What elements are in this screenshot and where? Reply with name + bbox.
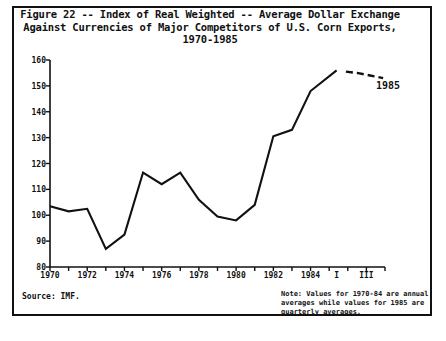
x-tick-label: 1972	[78, 271, 97, 280]
x-tick-label: 1982	[264, 271, 283, 280]
y-tick-label: 90	[24, 237, 46, 246]
annotation-1985: 1985	[376, 80, 400, 91]
line-chart-svg	[50, 60, 385, 267]
y-tick-label: 150	[24, 81, 46, 90]
y-tick-label: 140	[24, 107, 46, 116]
y-tick-label: 120	[24, 159, 46, 168]
x-tick-label: 1970	[40, 271, 59, 280]
figure-title: Figure 22 -- Index of Real Weighted -- A…	[14, 8, 406, 46]
figure-page: Figure 22 -- Index of Real Weighted -- A…	[0, 0, 446, 341]
footnote: Note: Values for 1970-84 are annual aver…	[281, 290, 431, 317]
source-note: Source: IMF.	[22, 292, 80, 301]
x-tick-label: III	[359, 271, 373, 280]
plot-area	[50, 60, 385, 267]
x-tick-label: 1976	[152, 271, 171, 280]
x-tick-label: 1974	[115, 271, 134, 280]
y-tick-label: 130	[24, 133, 46, 142]
x-tick-label: 1980	[226, 271, 245, 280]
chart-axes	[46, 60, 385, 271]
title-line-1: Figure 22 -- Index of Real Weighted -- A…	[14, 8, 406, 21]
series-line-annual	[50, 70, 337, 249]
title-line-3: 1970-1985	[14, 33, 406, 46]
y-tick-label: 110	[24, 185, 46, 194]
y-tick-label: 100	[24, 211, 46, 220]
title-line-2: Against Currencies of Major Competitors …	[14, 21, 406, 34]
y-axis-tick-labels: 8090100110120130140150160	[20, 0, 46, 341]
x-tick-label: 1984	[301, 271, 320, 280]
x-tick-label: 1978	[189, 271, 208, 280]
series-line-quarterly	[346, 72, 383, 78]
x-axis-tick-labels: 19701972197419761978198019821984IIII	[0, 271, 446, 285]
y-tick-label: 160	[24, 56, 46, 65]
x-tick-label: I	[334, 271, 339, 280]
